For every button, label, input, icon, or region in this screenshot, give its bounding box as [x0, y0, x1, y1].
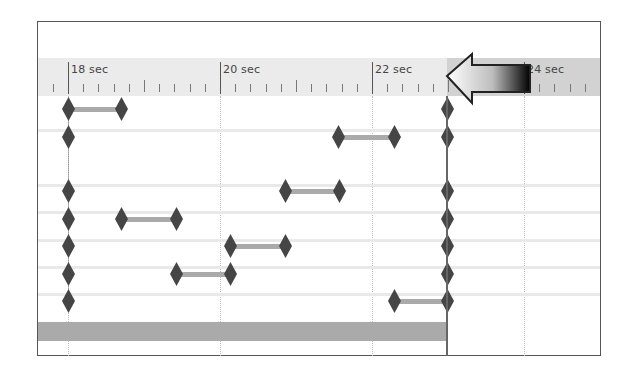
summary-track-bar[interactable]	[38, 322, 447, 341]
major-tick	[68, 62, 69, 94]
minor-tick	[250, 84, 251, 92]
keyframe-diamond-icon[interactable]	[224, 262, 237, 286]
minor-tick	[266, 84, 267, 92]
minor-tick	[433, 84, 434, 92]
row-separator	[38, 293, 600, 296]
keyframe-diamond-icon[interactable]	[170, 262, 183, 286]
major-tick	[220, 62, 221, 94]
minor-tick	[83, 84, 84, 92]
minor-tick	[190, 84, 191, 92]
minor-tick	[205, 84, 206, 92]
keyframe-diamond-icon[interactable]	[62, 207, 75, 231]
keyframe-span-bar[interactable]	[394, 299, 447, 304]
keyframe-span-bar[interactable]	[338, 135, 394, 140]
minor-tick	[554, 84, 555, 92]
keyframe-span-bar[interactable]	[176, 272, 230, 277]
minor-tick	[418, 84, 419, 92]
keyframe-span-bar[interactable]	[230, 244, 285, 249]
minor-tick	[159, 84, 160, 92]
keyframe-diamond-icon[interactable]	[62, 125, 75, 149]
minor-tick	[129, 84, 130, 92]
minor-tick	[114, 84, 115, 92]
keyframe-diamond-icon[interactable]	[170, 207, 183, 231]
keyframe-diamond-icon[interactable]	[224, 234, 237, 258]
minor-tick	[402, 84, 403, 92]
minor-tick	[387, 84, 388, 92]
left-arrow-icon	[444, 52, 536, 112]
minor-tick	[281, 84, 282, 92]
minor-tick	[342, 84, 343, 92]
keyframe-span-bar[interactable]	[121, 217, 176, 222]
minor-tick	[326, 84, 327, 92]
keyframe-diamond-icon[interactable]	[115, 97, 128, 121]
keyframe-diamond-icon[interactable]	[333, 179, 346, 203]
keyframe-diamond-icon[interactable]	[388, 125, 401, 149]
grid-line	[220, 96, 221, 356]
keyframe-diamond-icon[interactable]	[388, 289, 401, 313]
keyframe-diamond-icon[interactable]	[279, 179, 292, 203]
ruler-label-22: 22 sec	[375, 63, 412, 76]
minor-tick	[235, 84, 236, 92]
keyframe-diamond-icon[interactable]	[332, 125, 345, 149]
keyframe-diamond-icon[interactable]	[62, 289, 75, 313]
keyframe-diamond-icon[interactable]	[62, 234, 75, 258]
playhead-line[interactable]	[446, 96, 448, 356]
ruler-label-18: 18 sec	[71, 63, 108, 76]
minor-tick	[585, 84, 586, 92]
minor-tick	[357, 84, 358, 92]
minor-tick	[296, 80, 297, 92]
minor-tick	[53, 84, 54, 92]
row-separator	[38, 129, 600, 132]
minor-tick	[98, 84, 99, 92]
keyframe-span-bar[interactable]	[68, 107, 121, 112]
grid-line	[524, 96, 525, 356]
keyframe-diamond-icon[interactable]	[279, 234, 292, 258]
minor-tick	[570, 84, 571, 92]
minor-tick	[539, 84, 540, 92]
ruler-label-20: 20 sec	[223, 63, 260, 76]
minor-tick	[174, 84, 175, 92]
row-separator	[38, 266, 600, 269]
row-separator	[38, 184, 600, 187]
keyframe-diamond-icon[interactable]	[115, 207, 128, 231]
keyframe-diamond-icon[interactable]	[62, 262, 75, 286]
minor-tick	[144, 80, 145, 92]
keyframe-span-bar[interactable]	[285, 189, 339, 194]
row-separator	[38, 239, 600, 242]
keyframe-diamond-icon[interactable]	[62, 97, 75, 121]
minor-tick	[311, 84, 312, 92]
keyframe-diamond-icon[interactable]	[62, 179, 75, 203]
major-tick	[372, 62, 373, 94]
